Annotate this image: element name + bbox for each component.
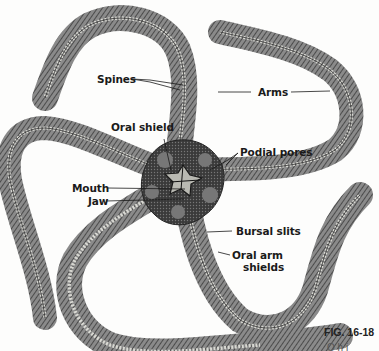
label-jaw: Jaw	[88, 196, 108, 207]
label-podial-pores: Podial pores	[240, 147, 312, 158]
central-disc	[141, 140, 224, 225]
figure-caption-partial: O h i	[327, 342, 348, 351]
label-mouth: Mouth	[72, 183, 109, 194]
brittle-star-diagram: Spines Arms Oral shield Podial pores Mou…	[0, 0, 379, 351]
label-spines: Spines	[97, 74, 136, 85]
label-oral-arm-shields-line2: shields	[243, 262, 284, 273]
brittle-star-illustration	[0, 0, 379, 351]
arms-leader-right	[291, 91, 330, 92]
oral-arm-shields-leader	[218, 252, 230, 255]
figure-number: FIG. 16-18	[324, 326, 374, 338]
oral-shield-plate	[157, 152, 173, 168]
label-oral-arm-shields-line1: Oral arm	[232, 250, 283, 261]
bursal-slits-leader	[207, 231, 232, 232]
label-arms: Arms	[258, 87, 288, 98]
label-bursal-slits: Bursal slits	[236, 226, 301, 237]
label-oral-shield: Oral shield	[111, 122, 174, 133]
arm-left	[9, 128, 170, 318]
